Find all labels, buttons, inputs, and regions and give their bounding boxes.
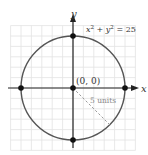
point-marker bbox=[70, 137, 76, 143]
circle-diagram: y x (0, 0) 5 units x2 + y2 = 25 bbox=[0, 0, 148, 155]
point-marker bbox=[70, 85, 76, 91]
eq-plus: + bbox=[94, 25, 106, 34]
x-axis-label: x bbox=[141, 83, 147, 94]
center-label: (0, 0) bbox=[76, 76, 100, 86]
radius-label: 5 units bbox=[90, 96, 116, 105]
point-marker bbox=[18, 85, 24, 91]
point-marker bbox=[70, 33, 76, 39]
eq-rhs: = 25 bbox=[114, 25, 136, 34]
point-marker bbox=[122, 85, 128, 91]
equation-label: x2 + y2 = 25 bbox=[86, 24, 136, 35]
y-axis-label: y bbox=[70, 8, 77, 19]
